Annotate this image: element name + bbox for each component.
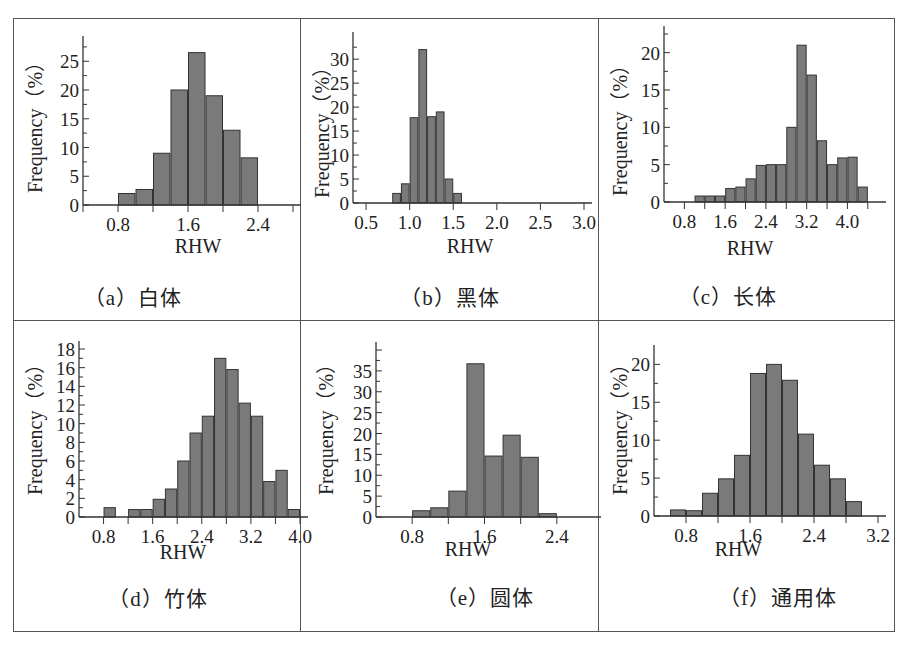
y-tick-label: 0 <box>340 193 350 214</box>
histogram-bar <box>766 165 775 202</box>
x-axis-label: RHW <box>698 538 778 561</box>
histogram-bar <box>703 493 718 516</box>
histogram-bar <box>189 53 206 205</box>
y-tick-label: 20 <box>631 354 650 375</box>
histogram-bar <box>288 510 299 517</box>
histogram-bar <box>797 45 806 202</box>
histogram-bar <box>751 373 766 516</box>
y-tick-label: 10 <box>60 138 79 159</box>
y-tick-label: 0 <box>66 507 76 528</box>
panel-caption: （a）白体 <box>33 281 233 311</box>
histogram-bar <box>393 193 401 203</box>
histogram-bar <box>401 184 409 203</box>
y-tick-label: 10 <box>56 414 75 435</box>
x-tick-label: 2.0 <box>485 212 509 233</box>
y-tick-label: 16 <box>56 358 75 379</box>
histogram-bar <box>454 193 462 203</box>
y-tick-label: 5 <box>70 166 80 187</box>
histogram-bar <box>445 179 453 203</box>
histogram-bar <box>449 491 466 517</box>
histogram-bar <box>777 165 786 202</box>
y-axis-label: Frequency（%） <box>19 354 48 495</box>
x-axis-label: RHW <box>710 237 790 260</box>
histogram-bar <box>136 189 153 205</box>
y-axis-label: Frequency（%） <box>604 354 633 495</box>
y-tick-label: 35 <box>353 361 372 382</box>
y-tick-label: 5 <box>651 155 661 176</box>
histogram-bar <box>485 456 502 517</box>
y-axis-label: Frequency（%） <box>604 55 633 196</box>
y-tick-label: 8 <box>66 432 76 453</box>
x-tick-label: 2.4 <box>802 525 826 546</box>
x-tick-label: 1.6 <box>176 214 200 235</box>
histogram-bar <box>141 510 152 517</box>
histogram-bar <box>413 511 430 517</box>
histogram-bar <box>190 433 201 517</box>
x-tick-label: 4.0 <box>836 211 860 232</box>
x-tick-label: 2.4 <box>754 211 778 232</box>
histogram-bar <box>787 127 796 202</box>
x-tick-label: 1.0 <box>398 212 422 233</box>
x-tick-label: 0.8 <box>674 525 698 546</box>
histogram-bar <box>104 508 115 517</box>
histogram-bar <box>767 364 782 516</box>
histogram-bar <box>705 196 714 202</box>
histogram-bar <box>847 502 862 516</box>
y-tick-label: 20 <box>641 43 660 64</box>
y-tick-label: 30 <box>353 382 372 403</box>
x-tick-label: 1.6 <box>713 211 737 232</box>
histogram-panel-b: 0510152025300.51.01.52.02.53.0 Frequency… <box>300 18 598 320</box>
histogram-bar <box>521 457 538 517</box>
y-tick-label: 5 <box>641 468 651 489</box>
y-tick-label: 18 <box>56 339 75 360</box>
histogram-panel-a: 05101520250.81.62.4 Frequency（%） RHW （a）… <box>13 18 300 320</box>
histogram-bar <box>838 158 847 202</box>
x-tick-label: 0.8 <box>400 526 424 547</box>
histogram-bar <box>719 479 734 516</box>
panel-caption: （e）圆体 <box>385 581 585 611</box>
y-tick-label: 0 <box>70 195 80 216</box>
histogram-bar <box>227 370 238 517</box>
x-tick-label: 0.5 <box>354 212 378 233</box>
histogram-bar <box>428 117 436 203</box>
histogram-bar <box>799 434 814 516</box>
histogram-bar <box>154 153 171 205</box>
histogram-bar <box>171 90 188 205</box>
panel-caption: （b）黑体 <box>350 281 550 311</box>
x-tick-label: 0.8 <box>92 526 116 547</box>
histogram-bar <box>746 179 755 202</box>
histogram-bar <box>206 96 223 205</box>
panel-caption: （f）通用体 <box>678 581 878 611</box>
histogram-plot: 051015200.81.62.43.24.0 <box>598 18 895 320</box>
histogram-bar <box>715 196 724 202</box>
histogram-bar <box>202 416 213 517</box>
y-tick-label: 5 <box>340 169 350 190</box>
histogram-bar <box>264 482 275 517</box>
y-tick-label: 20 <box>60 80 79 101</box>
y-tick-label: 0 <box>651 192 661 213</box>
histogram-bar <box>828 165 837 202</box>
histogram-bar <box>165 489 176 517</box>
histogram-plot: 0510152025300.51.01.52.02.53.0 <box>300 18 598 320</box>
y-tick-label: 0 <box>363 507 373 528</box>
y-tick-label: 15 <box>641 80 660 101</box>
y-tick-label: 15 <box>60 109 79 130</box>
histogram-bar <box>726 189 735 202</box>
histogram-bar <box>671 510 686 516</box>
x-tick-label: 3.0 <box>572 212 596 233</box>
histogram-bar <box>178 461 189 517</box>
histogram-bar <box>858 187 867 202</box>
y-tick-label: 14 <box>56 376 76 397</box>
histogram-bar <box>467 364 484 517</box>
x-tick-label: 3.2 <box>795 211 819 232</box>
histogram-bar <box>239 403 250 517</box>
histogram-bar <box>736 187 745 202</box>
histogram-panel-d: 0246810121416180.81.62.43.24.0 Frequency… <box>13 320 300 632</box>
histogram-bar <box>119 194 136 206</box>
y-tick-label: 20 <box>353 424 372 445</box>
histogram-bar <box>815 465 830 516</box>
y-tick-label: 0 <box>641 506 651 527</box>
x-tick-label: 2.4 <box>545 526 569 547</box>
histogram-bar <box>410 118 418 203</box>
y-tick-label: 25 <box>60 51 79 72</box>
